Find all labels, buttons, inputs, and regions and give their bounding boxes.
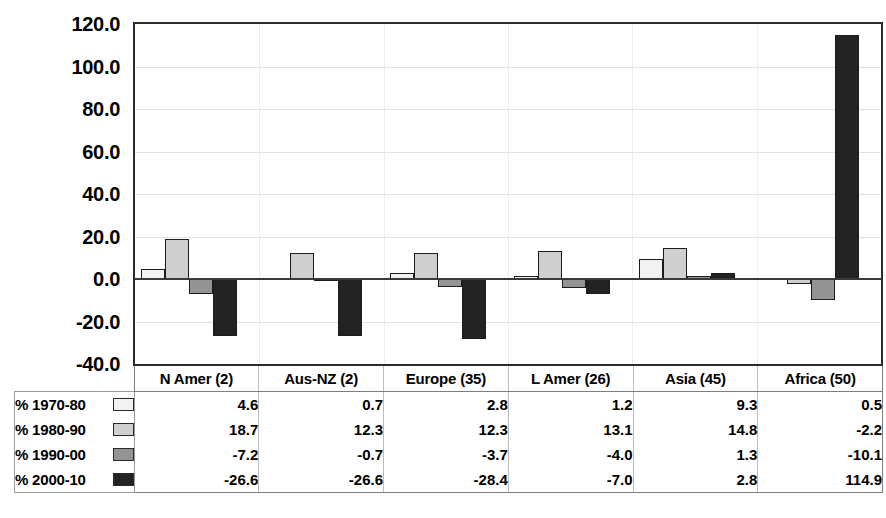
legend-swatch-icon — [113, 398, 134, 411]
y-axis-tick-label: 120.0 — [71, 13, 120, 36]
table-cell-value: 0.5 — [758, 392, 883, 418]
table-cell-value: 0.7 — [259, 392, 384, 418]
bar — [835, 35, 859, 279]
bar — [663, 248, 687, 279]
table-cell-value: -3.7 — [384, 442, 509, 467]
bar — [538, 251, 562, 279]
zero-axis-line — [135, 278, 881, 280]
legend-swatch-icon — [113, 448, 134, 461]
table-cell-value: 13.1 — [508, 417, 633, 442]
legend-entry: % 1990-00 — [15, 442, 135, 467]
table-column-header: Aus-NZ (2) — [259, 366, 384, 392]
legend-label: % 1980-90 — [15, 421, 86, 438]
table-row: % 1980-9018.712.312.313.114.8-2.2 — [15, 417, 883, 442]
table-cell-value: 18.7 — [134, 417, 259, 442]
bar — [811, 279, 835, 300]
bar — [586, 279, 610, 294]
table-corner-cell — [15, 366, 135, 392]
category-separator — [384, 24, 385, 364]
bar — [165, 239, 189, 279]
bar — [639, 259, 663, 279]
legend-entry: % 1970-80 — [15, 392, 135, 418]
table-cell-value: -2.2 — [758, 417, 883, 442]
category-separator — [632, 24, 633, 364]
table-cell-value: -7.0 — [508, 467, 633, 493]
legend-label: % 1970-80 — [15, 396, 86, 413]
bar — [213, 279, 237, 336]
chart-page: 120.0100.080.060.040.020.00.0-20.0-40.0 … — [0, 0, 886, 518]
legend-entry: % 1980-90 — [15, 417, 135, 442]
y-axis-tick-label: 100.0 — [71, 55, 120, 78]
table-cell-value: -28.4 — [384, 467, 509, 493]
table-header-row: N Amer (2)Aus-NZ (2)Europe (35)L Amer (2… — [15, 366, 883, 392]
legend-swatch-icon — [113, 423, 134, 436]
table-body: % 1970-804.60.72.81.29.30.5% 1980-9018.7… — [15, 392, 883, 493]
table-cell-value: -4.0 — [508, 442, 633, 467]
table-cell-value: 1.3 — [633, 442, 758, 467]
category-separator — [508, 24, 509, 364]
table-row: % 1990-00-7.2-0.7-3.7-4.01.3-10.1 — [15, 442, 883, 467]
table-cell-value: 12.3 — [259, 417, 384, 442]
table-column-header: L Amer (26) — [508, 366, 633, 392]
plot-area — [133, 22, 883, 366]
table-cell-value: 114.9 — [758, 467, 883, 493]
table-row: % 2000-10-26.6-26.6-28.4-7.02.8114.9 — [15, 467, 883, 493]
bar — [562, 279, 586, 288]
table-column-header: Asia (45) — [633, 366, 758, 392]
table-cell-value: 12.3 — [384, 417, 509, 442]
table-cell-value: -10.1 — [758, 442, 883, 467]
y-axis-tick-label: 60.0 — [82, 140, 120, 163]
y-axis-tick-label: 40.0 — [82, 183, 120, 206]
table-cell-value: 4.6 — [134, 392, 259, 418]
data-table: N Amer (2)Aus-NZ (2)Europe (35)L Amer (2… — [14, 366, 883, 493]
table-cell-value: 14.8 — [633, 417, 758, 442]
category-separator — [757, 24, 758, 364]
bar — [290, 253, 314, 279]
plot-inner — [135, 24, 881, 364]
data-table-wrapper: N Amer (2)Aus-NZ (2)Europe (35)L Amer (2… — [14, 366, 883, 504]
table-cell-value: 2.8 — [384, 392, 509, 418]
bar — [338, 279, 362, 336]
y-axis-tick-label: 0.0 — [93, 268, 120, 291]
table-cell-value: 1.2 — [508, 392, 633, 418]
table-column-header: Europe (35) — [384, 366, 509, 392]
table-cell-value: -0.7 — [259, 442, 384, 467]
y-axis-tick-label: 20.0 — [82, 225, 120, 248]
table-column-header: N Amer (2) — [134, 366, 259, 392]
y-axis: 120.0100.080.060.040.020.00.0-20.0-40.0 — [0, 22, 126, 366]
legend-entry: % 2000-10 — [15, 467, 135, 493]
table-cell-value: 9.3 — [633, 392, 758, 418]
legend-label: % 2000-10 — [15, 471, 86, 488]
bar — [462, 279, 486, 339]
y-axis-tick-label: 80.0 — [82, 98, 120, 121]
y-axis-tick-label: -20.0 — [76, 310, 120, 333]
table-cell-value: -7.2 — [134, 442, 259, 467]
table-row: % 1970-804.60.72.81.29.30.5 — [15, 392, 883, 418]
bar — [438, 279, 462, 287]
legend-label: % 1990-00 — [15, 446, 86, 463]
category-separator — [259, 24, 260, 364]
bar — [189, 279, 213, 294]
table-cell-value: -26.6 — [134, 467, 259, 493]
legend-swatch-icon — [113, 473, 134, 486]
table-cell-value: -26.6 — [259, 467, 384, 493]
bar — [414, 253, 438, 279]
table-column-header: Africa (50) — [758, 366, 883, 392]
table-cell-value: 2.8 — [633, 467, 758, 493]
